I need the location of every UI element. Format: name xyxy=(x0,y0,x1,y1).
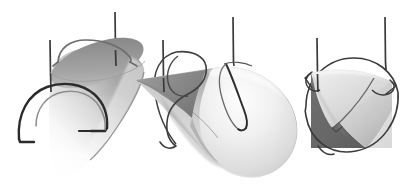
vertical-line-2 xyxy=(233,17,234,62)
vertical-line-1-front xyxy=(51,74,52,92)
vertical-line-1 xyxy=(317,38,318,74)
vertical-line-2-front xyxy=(386,62,387,70)
figure-panel xyxy=(0,0,416,193)
vertical-line-1-front xyxy=(164,78,165,92)
vertical-line-1 xyxy=(50,40,51,74)
vertical-line-2 xyxy=(385,17,386,62)
vertical-line-2-front xyxy=(116,50,117,66)
cone-figures-svg xyxy=(0,0,416,193)
vertical-line-1-front xyxy=(318,74,319,92)
panel-right-cone-body xyxy=(311,70,392,148)
